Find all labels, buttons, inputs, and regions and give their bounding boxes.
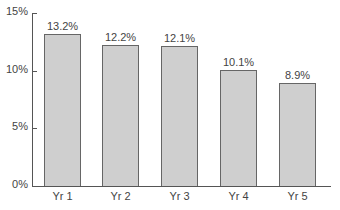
bar-value-label: 8.9% [273, 69, 323, 81]
bar [161, 46, 198, 186]
x-tick-label: Yr 1 [38, 190, 88, 202]
bar [279, 83, 316, 186]
y-tick-label: 10% [0, 63, 28, 75]
x-tick-label: Yr 2 [96, 190, 146, 202]
y-tick-label: 0% [0, 178, 28, 190]
y-axis [32, 13, 33, 187]
y-tick [32, 71, 37, 72]
y-tick [32, 128, 37, 129]
bar-chart: 0%5%10%15%13.2%Yr 112.2%Yr 212.1%Yr 310.… [0, 0, 340, 210]
bar [44, 34, 81, 186]
bar-value-label: 13.2% [38, 20, 88, 32]
bar-value-label: 12.2% [96, 31, 146, 43]
bar-value-label: 12.1% [155, 32, 205, 44]
bar-value-label: 10.1% [214, 56, 264, 68]
y-tick-label: 5% [0, 120, 28, 132]
y-tick [32, 186, 37, 187]
x-tick-label: Yr 4 [214, 190, 264, 202]
x-tick-label: Yr 5 [273, 190, 323, 202]
y-tick-label: 15% [0, 5, 28, 17]
x-tick-label: Yr 3 [155, 190, 205, 202]
bar [220, 70, 257, 186]
x-axis [32, 186, 331, 187]
y-tick [32, 13, 37, 14]
bar [102, 45, 139, 186]
